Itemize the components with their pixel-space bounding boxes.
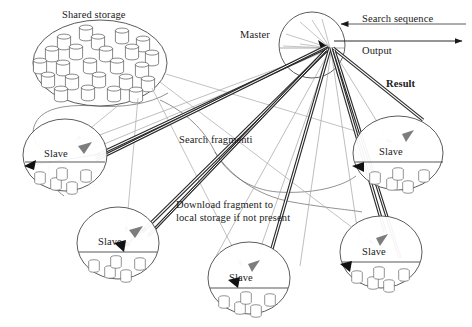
search-fragmenti-label: Search fragmenti — [179, 133, 253, 146]
output-label: Output — [362, 44, 392, 57]
diagram-canvas: Shared storage Master Search sequence Ou… — [0, 0, 472, 327]
shared-storage-node[interactable] — [33, 20, 167, 106]
master-node[interactable] — [279, 12, 345, 78]
slave-label-5: Slave — [362, 245, 386, 258]
slave-label-3: Slave — [229, 271, 253, 284]
slave-label-1: Slave — [44, 147, 68, 160]
slave-label-2: Slave — [98, 235, 122, 248]
search-sequence-label: Search sequence — [362, 12, 433, 25]
slave-label-4: Slave — [379, 145, 403, 158]
shared-storage-label: Shared storage — [62, 8, 126, 21]
master-label: Master — [240, 28, 270, 41]
download-fragment-label: Download fragment to local storage if no… — [176, 198, 296, 224]
result-label: Result — [386, 77, 415, 90]
